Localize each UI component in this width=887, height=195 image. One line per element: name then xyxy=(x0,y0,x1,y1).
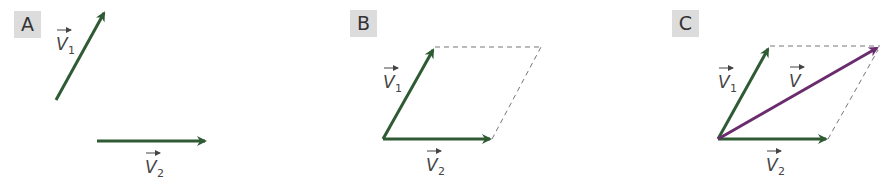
vector-v1 xyxy=(56,13,104,100)
vector-diagram: A V 1 V 2 B V 1 V 2 xyxy=(0,0,887,195)
panel-badge-label: C xyxy=(679,12,692,34)
dashed-parallel-v1 xyxy=(492,47,541,139)
label-v1: V 1 xyxy=(383,68,402,95)
label-v2-subscript: 2 xyxy=(438,165,445,178)
label-v2: V 2 xyxy=(145,153,164,180)
panel-badge-label: B xyxy=(357,12,370,34)
label-v1-subscript: 1 xyxy=(730,82,737,95)
label-v2: V 2 xyxy=(426,151,445,178)
label-v2-subscript: 2 xyxy=(157,167,164,180)
label-resultant: V xyxy=(789,67,804,91)
label-v1: V 1 xyxy=(56,30,75,57)
label-resultant-letter: V xyxy=(789,71,802,91)
panel-c: C V 1 V V 2 xyxy=(672,10,880,178)
panel-a: A V 1 V 2 xyxy=(14,11,205,180)
panel-b: B V 1 V 2 xyxy=(350,10,541,178)
label-v1: V 1 xyxy=(718,68,737,95)
label-v1-subscript: 1 xyxy=(68,44,75,57)
label-v1-subscript: 1 xyxy=(395,82,402,95)
label-v2-subscript: 2 xyxy=(778,165,785,178)
vector-v1 xyxy=(383,50,433,139)
panel-badge-label: A xyxy=(21,13,34,35)
label-v2: V 2 xyxy=(766,151,785,178)
